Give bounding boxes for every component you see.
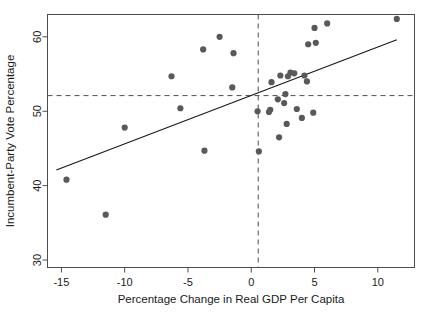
data-point xyxy=(122,125,128,131)
data-point xyxy=(281,100,287,106)
y-axis-title: Incumbent-Party Vote Percentage xyxy=(4,55,16,228)
data-point xyxy=(284,121,290,127)
plot-canvas: 30405060 -15-10-50510 Percentage Change … xyxy=(0,0,428,317)
data-point xyxy=(291,70,297,76)
data-point xyxy=(230,50,236,56)
x-axis-ticks: -15-10-50510 xyxy=(53,268,383,289)
y-tick-label: 30 xyxy=(31,254,43,266)
data-point xyxy=(277,72,283,78)
x-tick-label: 0 xyxy=(248,276,254,288)
x-tick-label: 5 xyxy=(311,276,317,288)
data-point xyxy=(63,177,69,183)
data-point xyxy=(275,96,281,102)
data-points xyxy=(63,16,400,218)
data-point xyxy=(324,20,330,26)
data-point xyxy=(394,16,400,22)
data-point xyxy=(305,41,311,47)
y-tick-label: 50 xyxy=(31,105,43,117)
y-tick-label: 60 xyxy=(31,31,43,43)
scatter-plot-figure: 30405060 -15-10-50510 Percentage Change … xyxy=(0,0,428,317)
data-point xyxy=(276,134,282,140)
data-point xyxy=(256,148,262,154)
fit-line-segment xyxy=(56,40,396,170)
data-point xyxy=(294,106,300,112)
data-point xyxy=(304,78,310,84)
data-point xyxy=(299,115,305,121)
data-point xyxy=(267,107,273,113)
data-point xyxy=(282,91,288,97)
x-tick-label: -10 xyxy=(117,276,133,288)
y-tick-label: 40 xyxy=(31,180,43,192)
x-tick-label: -15 xyxy=(53,276,69,288)
y-axis-ticks: 30405060 xyxy=(31,31,47,266)
data-point xyxy=(200,46,206,52)
data-point xyxy=(310,110,316,116)
data-point xyxy=(229,84,235,90)
data-point xyxy=(313,40,319,46)
x-axis-title: Percentage Change in Real GDP Per Capita xyxy=(118,293,345,305)
x-tick-label: -5 xyxy=(183,276,193,288)
data-point xyxy=(311,25,317,31)
data-point xyxy=(177,105,183,111)
data-point xyxy=(268,79,274,85)
data-point xyxy=(103,212,109,218)
data-point xyxy=(217,34,223,40)
regression-line xyxy=(56,40,396,170)
data-point xyxy=(201,148,207,154)
data-point xyxy=(254,108,260,114)
data-point xyxy=(168,73,174,79)
x-tick-label: 10 xyxy=(372,276,384,288)
data-point xyxy=(301,72,307,78)
